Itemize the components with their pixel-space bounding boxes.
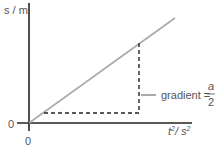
x-axis-label-sep: / s xyxy=(174,125,187,137)
gradient-label: gradient = xyxy=(161,89,210,101)
x-axis-label: t2/ s2 xyxy=(168,125,191,137)
graph-canvas: s / m 0 0 t2/ s2 gradient = a 2 xyxy=(0,0,217,149)
y-axis-label: s / m xyxy=(4,4,28,16)
origin-y-label: 0 xyxy=(8,118,14,130)
origin-x-label: 0 xyxy=(25,135,31,147)
gradient-denominator: 2 xyxy=(208,96,214,108)
x-axis-label-exp2: 2 xyxy=(186,125,191,132)
data-line xyxy=(29,18,175,123)
gradient-numerator: a xyxy=(208,80,214,92)
